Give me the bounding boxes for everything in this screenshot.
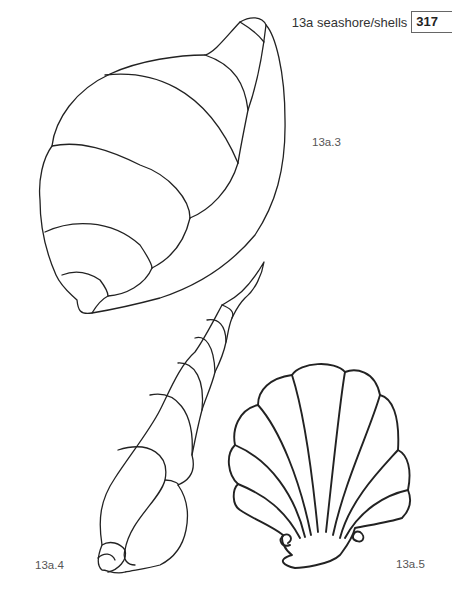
whelk-shell-drawing <box>40 18 286 314</box>
figure-label-13a5: 13a.5 <box>396 558 425 570</box>
figure-label-13a3: 13a.3 <box>312 136 341 148</box>
shell-illustrations <box>0 0 460 606</box>
figure-label-13a4: 13a.4 <box>35 559 64 571</box>
scallop-shell-drawing <box>229 364 410 568</box>
